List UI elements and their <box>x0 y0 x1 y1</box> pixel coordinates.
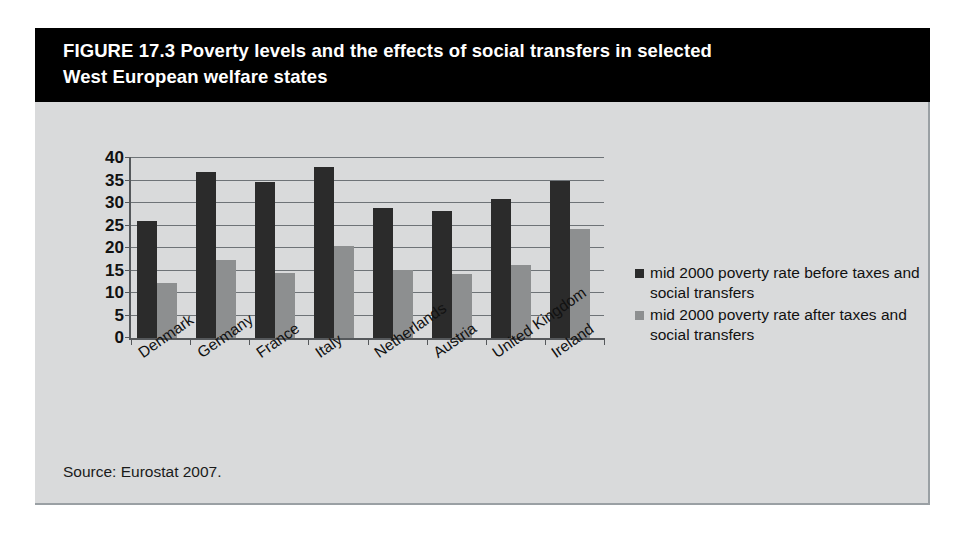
plot-wrapper: 0510152025303540 DenmarkGermanyFranceIta… <box>47 158 607 358</box>
x-tick-mark <box>604 338 605 345</box>
legend-swatch-icon <box>635 269 644 278</box>
bar-group <box>308 158 367 338</box>
x-tick-mark <box>249 338 250 345</box>
bar <box>314 167 334 338</box>
y-tick-label: 15 <box>105 261 124 281</box>
y-tick-label: 20 <box>105 238 124 258</box>
chart-legend: mid 2000 poverty rate before taxes and s… <box>635 263 925 347</box>
bar <box>334 246 354 338</box>
bar <box>137 221 157 338</box>
bar <box>196 172 216 338</box>
legend-label: mid 2000 poverty rate before taxes and s… <box>650 263 925 303</box>
legend-swatch-icon <box>635 311 644 320</box>
legend-entry: mid 2000 poverty rate after taxes and so… <box>635 305 925 345</box>
bar-group <box>368 158 427 338</box>
y-tick-label: 5 <box>115 306 124 326</box>
legend-label: mid 2000 poverty rate after taxes and so… <box>650 305 925 345</box>
y-tick-label: 10 <box>105 283 124 303</box>
y-tick-label: 0 <box>115 328 124 348</box>
y-tick-label: 40 <box>105 148 124 168</box>
bar-group <box>249 158 308 338</box>
y-tick-label: 30 <box>105 193 124 213</box>
x-tick-mark <box>190 338 191 345</box>
bar-group <box>131 158 190 338</box>
x-tick-mark <box>131 338 132 345</box>
x-tick-mark <box>545 338 546 345</box>
chart-area: 0510152025303540 DenmarkGermanyFranceIta… <box>35 102 930 505</box>
legend-entry: mid 2000 poverty rate before taxes and s… <box>635 263 925 303</box>
x-tick-mark <box>486 338 487 345</box>
bar-group <box>486 158 545 338</box>
bar <box>255 182 275 338</box>
figure-title: FIGURE 17.3 Poverty levels and the effec… <box>63 38 890 90</box>
source-note: Source: Eurostat 2007. <box>63 463 222 481</box>
x-tick-mark <box>368 338 369 345</box>
bar <box>373 208 393 339</box>
y-tick-label: 25 <box>105 216 124 236</box>
x-tick-mark <box>427 338 428 345</box>
bar-group <box>190 158 249 338</box>
plot-area: 0510152025303540 DenmarkGermanyFranceIta… <box>129 158 604 340</box>
figure-box: FIGURE 17.3 Poverty levels and the effec… <box>35 28 930 505</box>
bar <box>491 199 511 338</box>
figure-title-bar: FIGURE 17.3 Poverty levels and the effec… <box>35 28 930 102</box>
y-tick-label: 35 <box>105 171 124 191</box>
x-tick-mark <box>308 338 309 345</box>
